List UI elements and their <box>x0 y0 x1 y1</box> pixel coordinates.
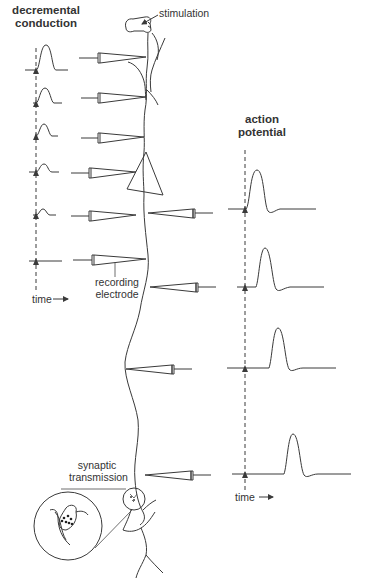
label-line-1: recording <box>92 276 142 288</box>
decremental-conduction-title: decremental conduction <box>8 4 84 30</box>
electrode-left-5 <box>71 211 136 221</box>
title-line-2: potential <box>232 126 292 139</box>
synapse-magnified-circle <box>34 492 102 560</box>
electrode-left-6 <box>73 255 146 277</box>
title-line-1: decremental <box>8 4 84 17</box>
diagram-canvas <box>0 0 367 582</box>
title-line-1: action <box>232 113 292 126</box>
right-time-label: time <box>235 491 255 503</box>
trace-right-4 <box>232 434 351 477</box>
electrode-right-4 <box>145 471 211 480</box>
recording-electrode-label: recording electrode <box>92 276 142 300</box>
label-line-2: electrode <box>92 288 142 300</box>
trace-left-2 <box>33 88 62 103</box>
trace-right-1 <box>228 170 316 213</box>
title-line-2: conduction <box>8 17 84 30</box>
action-potential-title: action potential <box>232 113 292 139</box>
trace-right-2 <box>237 248 324 291</box>
label-line-2: transmission <box>69 471 125 483</box>
trace-left-1 <box>25 45 68 70</box>
synaptic-transmission-label: synaptic transmission <box>69 459 125 483</box>
soma-triangle <box>127 152 163 195</box>
left-electrodes <box>71 53 146 277</box>
electrode-left-4 <box>71 168 136 178</box>
trace-left-4 <box>29 164 59 172</box>
action-potential-traces <box>227 150 351 497</box>
stimulation-electrode-icon <box>125 17 151 33</box>
trace-left-3 <box>36 124 58 136</box>
label-line-1: synaptic <box>69 459 125 471</box>
stimulation-label: stimulation <box>159 7 209 19</box>
trace-right-3 <box>227 328 336 371</box>
electrode-left-3 <box>81 133 144 143</box>
decremental-traces <box>25 45 68 299</box>
right-electrodes <box>126 209 216 480</box>
left-time-label: time <box>32 293 52 305</box>
electrode-left-1 <box>79 53 146 63</box>
electrode-right-1 <box>148 209 213 218</box>
vesicles-icon <box>61 515 74 526</box>
electrode-right-2 <box>150 283 216 292</box>
electrode-left-2 <box>81 93 146 103</box>
electrode-right-3 <box>126 365 192 374</box>
neuron-conduction-diagram: decremental conduction action potential … <box>0 0 367 582</box>
